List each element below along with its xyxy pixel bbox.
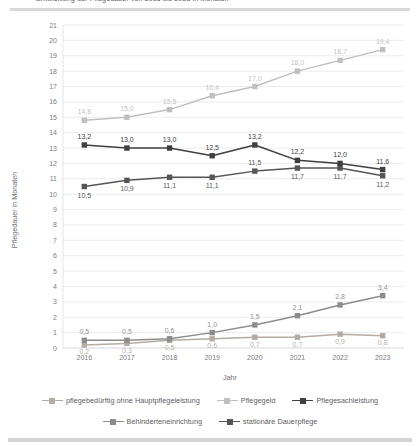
legend-label: Pflegegeld [241,396,276,405]
data-label: 10,9 [120,185,134,192]
data-point-marker [252,322,257,327]
data-label: 17,0 [248,75,262,82]
chart-gridlines [63,25,404,348]
data-label: 11,2 [376,181,389,188]
page-title-strip: Entwicklung der Pflegedauer von 2016 bis… [0,0,420,7]
chart-series-group [82,47,386,348]
data-point-marker [209,93,214,98]
y-tick-label: 6 [53,252,57,259]
data-point-marker [209,175,214,180]
data-point-marker [209,330,214,335]
y-tick-label: 4 [53,283,57,290]
data-label: 0,3 [122,347,132,354]
data-point-marker [295,165,300,170]
legend-label: Behinderteneinrichtung [127,417,203,426]
data-point-marker [82,338,87,343]
data-point-marker [209,153,214,158]
y-tick-label: 3 [53,298,57,305]
data-label: 0,5 [122,328,132,335]
data-label: 15,5 [163,98,177,105]
data-label: 0,5 [165,344,175,351]
data-point-marker [82,142,87,147]
data-label: 3,4 [378,284,388,291]
data-label: 19,4 [376,38,390,45]
data-label: 11,1 [206,182,219,189]
data-point-marker [252,168,257,173]
y-axis-tick-labels: 0123456789101112131415161718192021 [49,22,57,352]
legend-row-2: Behinderteneinrichtungstationäre Dauerpf… [0,411,420,432]
data-point-marker [209,336,214,341]
data-label: 0,7 [250,341,260,348]
data-label: 12,5 [205,144,219,151]
data-point-marker [124,145,129,150]
data-label: 18,7 [333,48,347,55]
legend-item[interactable]: stationäre Dauerpflege [219,417,317,426]
data-label: 15,0 [120,105,134,112]
chart-axes [63,25,404,348]
y-tick-label: 9 [53,206,57,213]
data-label: 1,0 [207,321,217,328]
legend-item[interactable]: Behinderteneinrichtung [103,417,203,426]
y-tick-label: 21 [49,22,57,29]
data-label: 0,9 [335,338,345,345]
data-point-marker [337,58,342,63]
data-label: 0,8 [378,339,388,346]
x-tick-label: 2017 [119,354,135,361]
data-point-marker [380,333,385,338]
data-point-marker [82,118,87,123]
divider-bottom [8,438,412,442]
data-point-marker [167,336,172,341]
legend-item[interactable]: pflegebedürftig ohne Hauptpflegeleistung [42,396,200,405]
legend-row-1: pflegebedürftig ohne Hauptpflegeleistung… [0,390,420,411]
data-point-marker [380,167,385,172]
legend-label: Pflegesachleistung [316,396,378,405]
y-tick-label: 0 [53,345,57,352]
y-tick-label: 20 [49,37,57,44]
data-point-marker [82,184,87,189]
data-label: 12,2 [291,148,305,155]
data-label: 16,4 [205,84,219,91]
y-tick-label: 18 [49,68,57,75]
data-label: 18,0 [291,59,305,66]
y-tick-label: 5 [53,268,57,275]
page-title: Entwicklung der Pflegedauer von 2016 bis… [36,0,229,3]
y-tick-label: 13 [49,145,57,152]
data-label: 0,6 [165,327,175,334]
legend-marker-icon [292,397,313,405]
data-label: 2,8 [335,293,345,300]
y-tick-label: 2 [53,314,57,321]
data-point-marker [252,142,257,147]
legend-item[interactable]: Pflegesachleistung [292,396,378,405]
x-tick-label: 2021 [290,354,306,361]
y-axis-title: Pflegedauer in Monaten [10,172,19,248]
data-point-marker [124,338,129,343]
data-label: 1,5 [250,313,260,320]
data-label: 11,1 [163,182,176,189]
data-label: 13,2 [78,133,92,140]
x-tick-label: 2022 [332,354,348,361]
data-label: 12,0 [333,151,347,158]
x-tick-label: 2020 [247,354,263,361]
legend-marker-icon [103,418,124,426]
data-label: 11,5 [248,159,261,166]
x-tick-label: 2018 [162,354,178,361]
data-label: 0,2 [79,348,89,355]
x-axis-tick-labels: 20162017201820192020202120222023 [77,354,391,361]
data-point-marker [337,161,342,166]
data-point-marker [295,335,300,340]
data-point-marker [167,145,172,150]
y-tick-label: 8 [53,221,57,228]
data-label: 0,5 [79,328,89,335]
y-tick-label: 12 [49,160,57,167]
data-label: 13,0 [120,136,134,143]
data-point-marker [337,302,342,307]
data-point-marker [337,331,342,336]
data-label: 14,8 [78,108,92,115]
x-axis-title: Jahr [223,373,238,382]
data-point-marker [167,175,172,180]
data-point-marker [295,313,300,318]
legend-label: pflegebedürftig ohne Hauptpflegeleistung [66,396,200,405]
data-point-marker [295,158,300,163]
y-tick-label: 10 [49,191,57,198]
legend-item[interactable]: Pflegegeld [217,396,276,405]
